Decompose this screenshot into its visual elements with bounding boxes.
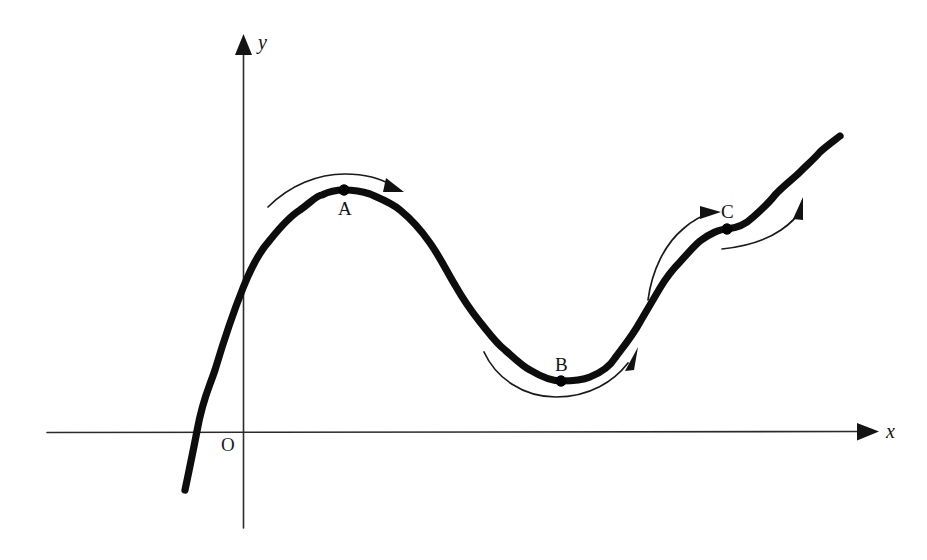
y-axis-label: y — [258, 32, 267, 52]
point-marker-a — [339, 185, 349, 195]
arc-arrow-over-a-head — [383, 178, 404, 192]
arc-arrow-into-c-head — [700, 206, 721, 219]
figure-canvas — [0, 0, 927, 560]
x-axis-arrowhead — [857, 423, 879, 441]
main-curve — [185, 136, 840, 490]
x-axis — [47, 423, 879, 441]
x-axis-label: x — [886, 421, 895, 441]
y-axis-arrowhead — [235, 34, 252, 55]
point-marker-c — [722, 224, 732, 234]
point-label-c: C — [721, 202, 734, 221]
x-axis-line — [47, 432, 860, 433]
arc-arrow-out-of-c-head — [793, 197, 803, 220]
arc-arrow-under-b-head — [625, 347, 638, 371]
origin-label: O — [221, 435, 235, 454]
point-marker-b — [556, 376, 566, 386]
point-label-a: A — [338, 199, 352, 218]
curve-figure: y x O A B C — [0, 0, 927, 560]
point-label-b: B — [555, 355, 568, 374]
